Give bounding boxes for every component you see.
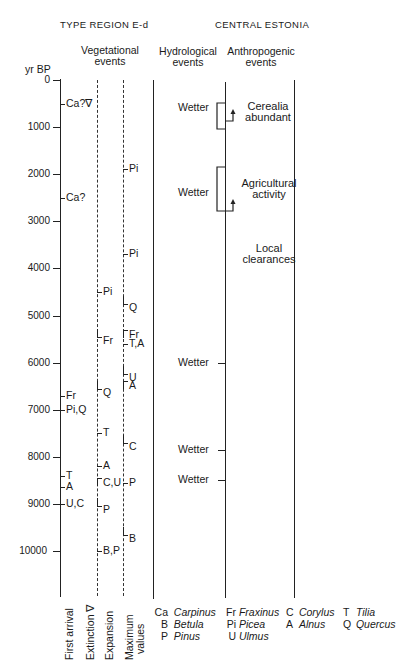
cerealia-arrow-line: [225, 113, 233, 121]
legend-item: Fr Fraxinus: [223, 606, 279, 618]
legend-group-3: C Corylus A Alnus: [286, 606, 335, 630]
legend-group-2: Fr Fraxinus Pi Picea U Ulmus: [223, 606, 279, 642]
anthropogenic-brackets: [0, 0, 418, 667]
legend-group-4: T Tilia Q Quercus: [343, 606, 396, 630]
agricultural-bracket: [217, 167, 225, 211]
legend-item: U Ulmus: [223, 630, 279, 642]
extinction-column-label: Extinction ∇: [85, 605, 96, 660]
legend-item: C Corylus: [286, 606, 335, 618]
legend-item: Ca Carpinus: [152, 606, 216, 618]
arrow-up-icon: [231, 199, 236, 204]
legend-group-1: Ca Carpinus B Betula P Pinus: [152, 606, 216, 642]
arrow-up-icon: [231, 109, 236, 114]
local-clearances-label: Local clearances: [236, 243, 302, 265]
legend-item: B Betula: [152, 618, 216, 630]
first-arrival-column-label: First arrival: [64, 608, 75, 660]
cerealia-bracket: [217, 103, 225, 129]
agricultural-arrow-line: [225, 203, 233, 211]
legend-item: Pi Picea: [223, 618, 279, 630]
legend-item: A Alnus: [286, 618, 335, 630]
agricultural-activity-label: Agricultural activity: [236, 178, 302, 200]
cerealia-abundant-label: Cerealia abundant: [240, 101, 296, 123]
legend-item: T Tilia: [343, 606, 396, 618]
expansion-column-label: Expansion: [104, 611, 115, 660]
legend-item: P Pinus: [152, 630, 216, 642]
legend-item: Q Quercus: [343, 618, 396, 630]
maximum-values-column-label: Maximum values: [124, 614, 146, 660]
